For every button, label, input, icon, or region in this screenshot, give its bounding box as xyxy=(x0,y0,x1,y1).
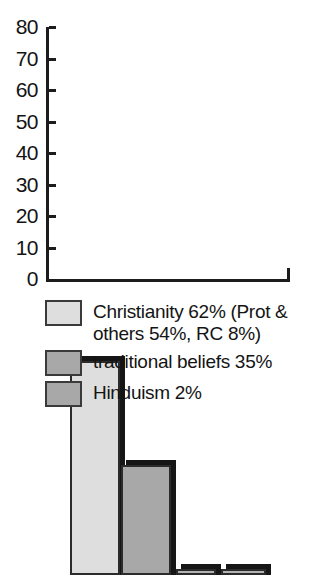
y-axis-label: 20 xyxy=(0,205,38,226)
y-axis-tick xyxy=(49,121,56,124)
y-axis-tick xyxy=(49,215,56,218)
plot-area: 80706050403020100 xyxy=(0,0,314,296)
y-axis-tick xyxy=(49,58,56,61)
y-axis-label: 70 xyxy=(0,48,38,69)
y-axis-tick xyxy=(49,184,56,187)
legend-label: Hinduism 2% xyxy=(93,381,202,404)
bar-face xyxy=(176,569,216,575)
legend-swatch xyxy=(45,350,82,376)
y-axis-label: 80 xyxy=(0,16,38,37)
legend-swatch xyxy=(45,381,82,407)
y-axis-label: 60 xyxy=(0,79,38,100)
bar-face xyxy=(121,465,171,575)
x-axis-line xyxy=(46,279,290,282)
legend-label: Christianity 62% (Prot & others 54%, RC … xyxy=(93,300,287,345)
bar-face xyxy=(221,569,266,575)
legend-item: traditional beliefs 35% xyxy=(0,350,314,376)
x-axis-end-tick xyxy=(287,268,290,282)
y-axis-tick xyxy=(49,89,56,92)
y-axis-label: 0 xyxy=(0,268,38,289)
legend-item: Hinduism 2% xyxy=(0,381,314,407)
legend-label: traditional beliefs 35% xyxy=(93,350,272,373)
y-axis-tick xyxy=(49,152,56,155)
chart-legend: Christianity 62% (Prot & others 54%, RC … xyxy=(0,300,314,412)
y-axis-tick xyxy=(49,26,56,29)
legend-swatch xyxy=(45,300,82,326)
y-axis-label: 10 xyxy=(0,237,38,258)
y-axis-label: 30 xyxy=(0,174,38,195)
y-axis-label: 50 xyxy=(0,111,38,132)
legend-item: Christianity 62% (Prot & others 54%, RC … xyxy=(0,300,314,345)
y-axis-tick xyxy=(49,247,56,250)
y-axis-label: 40 xyxy=(0,142,38,163)
